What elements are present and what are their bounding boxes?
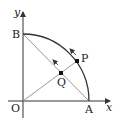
label-a: A xyxy=(84,103,94,116)
label-p: P xyxy=(81,52,89,65)
label-q: Q xyxy=(57,76,66,89)
x-axis-label: x xyxy=(106,101,113,114)
point-q xyxy=(59,71,63,75)
arrow-q-motion-icon xyxy=(53,60,58,65)
point-p xyxy=(75,59,79,63)
y-axis-label: y xyxy=(13,6,21,19)
label-o: O xyxy=(11,102,20,115)
label-b: B xyxy=(12,28,20,41)
diagram-canvas: y x B O A P Q xyxy=(0,0,118,134)
segment-ba xyxy=(23,34,89,101)
